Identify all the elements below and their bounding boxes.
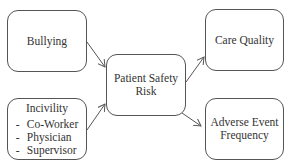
node-bullying: Bullying: [7, 10, 87, 72]
list-item: -Physician: [16, 131, 78, 144]
list-item: -Supervisor: [16, 144, 78, 157]
item-text: Co-Worker: [27, 118, 78, 130]
node-risk-line1: Patient Safety: [114, 72, 178, 85]
dash-bullet: -: [16, 118, 27, 131]
node-patient-safety-risk: Patient Safety Risk: [106, 54, 186, 116]
node-care-quality-label: Care Quality: [215, 34, 274, 47]
arrow-incivility-to-risk: [87, 104, 105, 130]
node-bullying-label: Bullying: [27, 35, 67, 48]
arrow-risk-to-care-quality: [186, 57, 204, 82]
dash-bullet: -: [16, 144, 27, 157]
node-risk-line2: Risk: [135, 85, 156, 98]
list-item: -Co-Worker: [16, 118, 78, 131]
incivility-sources-list: -Co-Worker -Physician -Supervisor: [16, 118, 78, 157]
node-adverse-line2: Frequency: [220, 129, 269, 142]
node-adverse-event-frequency: Adverse Event Frequency: [205, 98, 284, 160]
item-text: Physician: [27, 131, 72, 143]
node-incivility-label: Incivility: [26, 102, 68, 115]
item-text: Supervisor: [27, 144, 77, 156]
node-incivility: Incivility -Co-Worker -Physician -Superv…: [7, 98, 87, 160]
arrow-risk-to-adverse-event: [182, 113, 201, 126]
node-adverse-line1: Adverse Event: [210, 116, 278, 129]
node-care-quality: Care Quality: [205, 9, 284, 71]
dash-bullet: -: [16, 131, 27, 144]
arrow-bullying-to-risk: [87, 42, 105, 67]
